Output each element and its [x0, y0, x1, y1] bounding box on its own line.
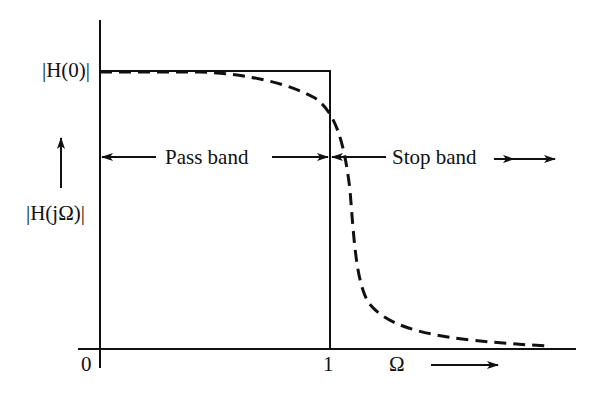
diagram-graphics — [0, 0, 604, 394]
practical-response-curve — [100, 72, 548, 346]
h0-label-text: |H(0)| — [42, 58, 90, 82]
h0-label: |H(0)| — [42, 60, 90, 81]
omega-label: Ω — [389, 354, 405, 375]
y-axis-label-text: |H(jΩ)| — [26, 201, 85, 225]
stop-band-label: Stop band — [392, 147, 477, 168]
ideal-response-curve — [100, 71, 330, 349]
origin-label: 0 — [81, 354, 92, 375]
filter-response-diagram: |H(0)| |H(jΩ)| 0 1 Ω Pass band Stop band — [0, 0, 604, 394]
pass-band-label: Pass band — [165, 147, 248, 168]
cutoff-label: 1 — [323, 354, 334, 375]
y-axis-label: |H(jΩ)| — [26, 203, 85, 224]
